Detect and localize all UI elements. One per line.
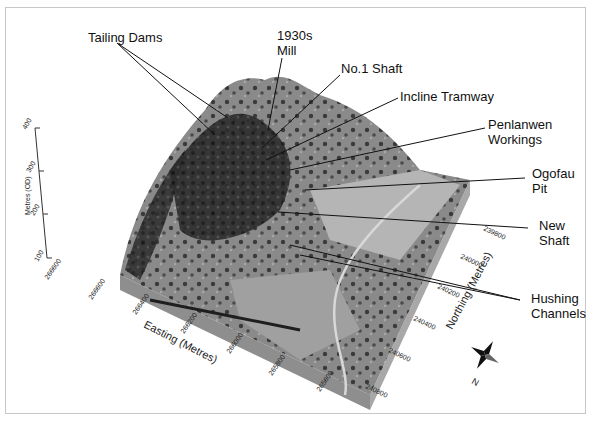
label-hushing-line2: Channels bbox=[531, 306, 586, 321]
svg-text:266600: 266600 bbox=[87, 277, 106, 300]
svg-text:N: N bbox=[470, 376, 481, 388]
label-penlanwen-line2: Workings bbox=[488, 132, 542, 147]
svg-text:100: 100 bbox=[33, 249, 45, 263]
label-hushing-line1: Hushing bbox=[531, 291, 579, 306]
label-ogofau-line2: Pit bbox=[532, 181, 547, 196]
label-incline-tramway: Incline Tramway bbox=[400, 89, 494, 104]
label-ogofau-line1: Ogofau bbox=[532, 166, 575, 181]
north-arrow-icon: N bbox=[470, 340, 501, 388]
svg-text:400: 400 bbox=[21, 117, 33, 131]
label-new-shaft-line1: New bbox=[539, 218, 565, 233]
svg-text:266600: 266600 bbox=[43, 257, 62, 280]
svg-text:300: 300 bbox=[25, 160, 37, 174]
svg-text:240400: 240400 bbox=[413, 315, 437, 331]
svg-text:239800: 239800 bbox=[483, 225, 507, 241]
terrain-diagram: 400 300 200 100 Metres (OD) 266600 26660… bbox=[0, 0, 599, 428]
label-mill-line2: Mill bbox=[277, 43, 297, 58]
label-new-shaft-line2: Shaft bbox=[539, 233, 569, 248]
label-no1-shaft: No.1 Shaft bbox=[341, 61, 402, 76]
elevation-axis: 400 300 200 100 Metres (OD) bbox=[21, 117, 52, 263]
label-tailing-dams: Tailing Dams bbox=[88, 30, 162, 45]
svg-text:Metres (OD): Metres (OD) bbox=[24, 177, 32, 216]
label-penlanwen-line1: Penlanwen bbox=[488, 117, 552, 132]
label-mill-line1: 1930s bbox=[277, 28, 312, 43]
